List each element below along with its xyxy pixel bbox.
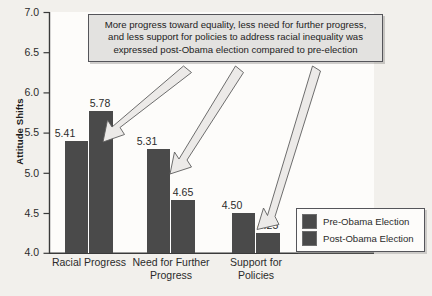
y-tick-label: 5.0 — [13, 167, 39, 179]
y-tick-label: 4.0 — [13, 246, 39, 258]
callout-annotation-box: More progress toward equality, less need… — [88, 14, 383, 62]
x-category-line: Racial Progress — [52, 256, 126, 268]
x-category-label-support-for-policies: Support forPolicies — [209, 256, 303, 281]
legend-item-label: Post-Obama Election — [323, 233, 414, 244]
value-label-racial-progress-pre: 5.41 — [49, 127, 81, 139]
y-tick-label: 7.0 — [13, 6, 39, 18]
callout-line-3: expressed post-Obama election compared t… — [95, 44, 376, 56]
x-category-line: Policies — [238, 269, 274, 281]
bar-racial-progress-pre — [65, 141, 88, 254]
x-category-label-need-for-further-progress: Need for FurtherProgress — [124, 256, 218, 281]
legend-item-label: Pre-Obama Election — [323, 216, 409, 227]
y-tick-label: 4.5 — [13, 207, 39, 219]
legend-item-pre-obama-election: Pre-Obama Election — [302, 213, 419, 230]
callout-line-2: and less support for policies to address… — [95, 31, 376, 43]
value-label-support-for-policies-post: 4.25 — [252, 219, 284, 231]
legend-swatch-icon — [302, 231, 317, 246]
bar-need-for-further-progress-post — [170, 200, 195, 253]
bar-need-for-further-progress-pre — [147, 149, 170, 254]
bar-racial-progress-post — [88, 111, 113, 253]
bar-support-for-policies-post — [255, 233, 280, 253]
y-tick-label: 6.5 — [13, 46, 39, 58]
x-category-line: Support for — [230, 256, 282, 268]
x-category-line: Progress — [150, 269, 192, 281]
bar-chart-figure: Attitude Shifts 7.0 6.5 6.0 5.5 5.0 4.5 … — [0, 0, 432, 296]
value-label-need-for-further-progress-post: 4.65 — [167, 186, 199, 198]
legend-swatch-icon — [302, 214, 317, 229]
x-category-line: Need for Further — [132, 256, 209, 268]
y-tick-label: 5.5 — [13, 126, 39, 138]
chart-legend: Pre-Obama Election Post-Obama Election — [296, 208, 425, 252]
value-label-racial-progress-post: 5.78 — [84, 97, 116, 109]
y-tick-label: 6.0 — [13, 86, 39, 98]
legend-item-post-obama-election: Post-Obama Election — [302, 230, 419, 247]
callout-line-1: More progress toward equality, less need… — [95, 19, 376, 31]
x-category-label-racial-progress: Racial Progress — [42, 256, 136, 269]
value-label-need-for-further-progress-pre: 5.31 — [131, 135, 163, 147]
value-label-support-for-policies-pre: 4.50 — [216, 199, 248, 211]
